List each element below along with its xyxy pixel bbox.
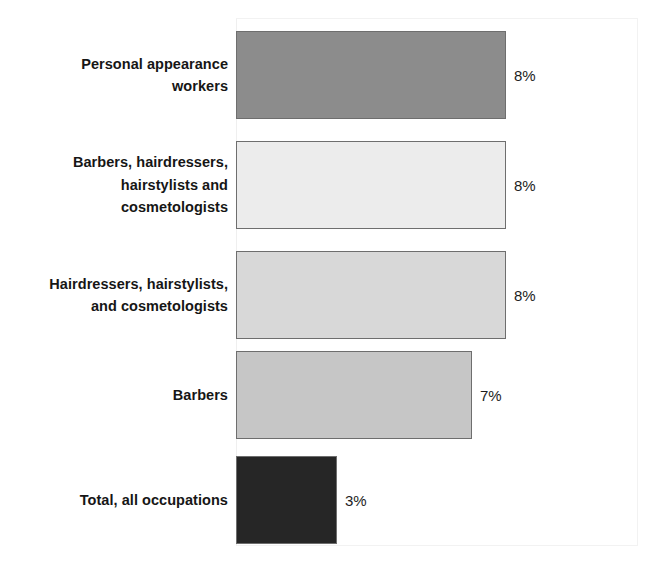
category-label: Total, all occupations [0,489,228,511]
bar-track: 8% [236,141,656,229]
bar[interactable] [236,456,337,544]
category-label-line: cosmetologists [0,196,228,218]
category-label: Hairdressers, hairstylists,and cosmetolo… [0,273,228,318]
bar-row: Barbers, hairdressers,hairstylists andco… [0,141,656,229]
category-label-line: Hairdressers, hairstylists, [0,273,228,295]
bar[interactable] [236,251,506,339]
bar-value-label: 7% [480,387,502,404]
bar-track: 8% [236,251,656,339]
category-label: Barbers, hairdressers,hairstylists andco… [0,151,228,218]
bar-row: Barbers7% [0,351,656,439]
bar[interactable] [236,351,472,439]
bar-track: 8% [236,31,656,119]
category-label: Personal appearanceworkers [0,53,228,98]
category-label-line: hairstylists and [0,174,228,196]
bar-chart: Personal appearanceworkers8%Barbers, hai… [0,0,656,566]
bar-track: 3% [236,456,656,544]
category-label-line: workers [0,75,228,97]
bar-value-label: 3% [345,492,367,509]
category-label: Barbers [0,384,228,406]
bar[interactable] [236,141,506,229]
bar-value-label: 8% [514,67,536,84]
category-label-line: Total, all occupations [0,489,228,511]
bar[interactable] [236,31,506,119]
bar-row: Hairdressers, hairstylists,and cosmetolo… [0,251,656,339]
bar-track: 7% [236,351,656,439]
category-label-line: and cosmetologists [0,295,228,317]
category-label-line: Barbers [0,384,228,406]
bar-value-label: 8% [514,177,536,194]
bar-row: Personal appearanceworkers8% [0,31,656,119]
category-label-line: Barbers, hairdressers, [0,151,228,173]
category-label-line: Personal appearance [0,53,228,75]
bar-row: Total, all occupations3% [0,456,656,544]
bar-value-label: 8% [514,287,536,304]
